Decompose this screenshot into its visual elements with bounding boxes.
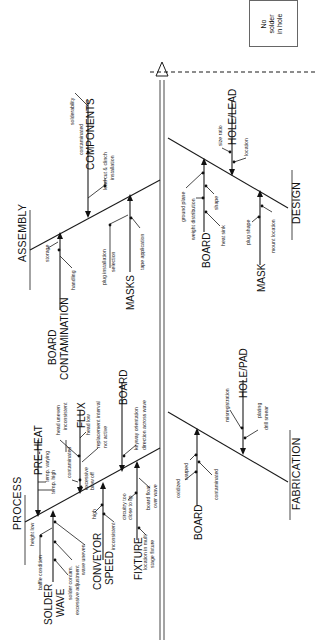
svg-text:blow off: blow off: [89, 472, 95, 490]
svg-text:ground plane: ground plane: [180, 192, 186, 222]
cause-components: COMPONENTS: [85, 98, 96, 170]
cause-board-contamination-1: BOARD: [47, 329, 58, 365]
svg-text:head low: head low: [85, 414, 91, 435]
svg-text:warped: warped: [183, 463, 189, 480]
svg-text:location in multi: location in multi: [142, 534, 148, 570]
svg-text:size ratio: size ratio: [217, 125, 223, 146]
bone-process: PROCESS PRE-HEAT temp. varying temp. hig…: [11, 369, 160, 625]
svg-text:lead cut & clinch: lead cut & clinch: [102, 152, 108, 190]
svg-text:misregistration: misregistration: [224, 388, 230, 422]
fishbone-diagram: ASSEMBLY COMPONENTS solderability contam…: [0, 0, 316, 642]
spine: [156, 62, 168, 640]
svg-text:tape application: tape application: [139, 234, 145, 270]
cause-design-board: BOARD: [201, 232, 212, 268]
svg-text:direction across wave: direction across wave: [141, 400, 147, 450]
cause-design-mask: MASK: [256, 263, 267, 292]
bone-assembly: ASSEMBLY COMPONENTS solderability contam…: [16, 93, 160, 380]
svg-text:contaminated: contaminated: [78, 124, 84, 155]
svg-text:plating: plating: [256, 403, 262, 418]
svg-text:selection: selection: [110, 251, 116, 272]
svg-text:location: location: [243, 138, 249, 156]
svg-text:oxidized: oxidized: [175, 479, 181, 498]
svg-text:plug installation: plug installation: [101, 249, 107, 285]
svg-text:height low: height low: [29, 522, 35, 546]
cause-fabrication-board: BOARD: [193, 504, 204, 540]
svg-text:weight distribution: weight distribution: [190, 198, 196, 240]
svg-text:installation: installation: [109, 155, 115, 180]
category-fabrication: FABRICATION: [290, 437, 302, 510]
svg-text:temp. high: temp. high: [50, 470, 56, 494]
svg-text:board float: board float: [145, 485, 151, 510]
cause-conveyor-speed-1: CONVEYOR: [92, 533, 103, 590]
cause-hole-lead: HOLE/LEAD: [227, 89, 238, 145]
svg-text:contaminated: contaminated: [213, 469, 219, 500]
svg-text:high: high: [91, 509, 97, 519]
category-process: PROCESS: [11, 477, 23, 530]
bone-design: DESIGN HOLE/LEAD size ratio location BOA…: [168, 89, 302, 292]
svg-text:drill smear: drill smear: [263, 406, 269, 430]
svg-text:not active: not active: [102, 426, 108, 448]
cause-pre-heat: PRE-HEAT: [33, 425, 44, 475]
svg-text:solder contam.: solder contam.: [67, 566, 73, 600]
svg-text:wave uneven: wave uneven: [80, 544, 86, 575]
category-design: DESIGN: [290, 182, 302, 224]
svg-text:contaminated: contaminated: [66, 447, 72, 478]
cause-process-board: BOARD: [118, 369, 129, 405]
spine-arrow-icon: [156, 62, 168, 76]
svg-text:solderability: solderability: [69, 97, 75, 125]
bone-fabrication: FABRICATION HOLE/PAD misregistration pla…: [168, 348, 302, 540]
svg-text:storage: storage: [44, 245, 50, 262]
svg-text:shape: shape: [213, 196, 219, 210]
svg-text:mount location: mount location: [270, 219, 276, 253]
effect-label: No solder in hole: [260, 13, 284, 34]
svg-text:stage fixture: stage fixture: [149, 540, 155, 568]
svg-text:plug shape: plug shape: [245, 220, 251, 245]
cause-hole-pad: HOLE/PAD: [238, 348, 249, 398]
svg-text:baffle condition: baffle condition: [37, 555, 43, 590]
cause-board-contamination-2: CONTAMINATION: [59, 298, 70, 380]
svg-text:inconsistent: inconsistent: [110, 522, 116, 550]
svg-text:keyway orientation: keyway orientation: [133, 407, 139, 450]
svg-text:close to lip: close to lip: [127, 495, 133, 520]
category-assembly: ASSEMBLY: [16, 204, 28, 262]
cause-conveyor-speed-2: SPEED: [104, 551, 115, 585]
svg-text:replacement interval: replacement interval: [95, 401, 101, 448]
cause-masks: MASKS: [125, 275, 136, 310]
cause-solder-wave-2: WAVE: [55, 588, 66, 617]
svg-text:over wave: over wave: [152, 484, 158, 508]
svg-text:handling: handling: [70, 270, 76, 290]
effect-box: No solder in hole: [249, 0, 298, 47]
svg-text:inconsistent: inconsistent: [62, 402, 68, 430]
cause-solder-wave-1: SOLDER: [43, 584, 54, 625]
svg-text:head uneven: head uneven: [55, 405, 61, 435]
svg-text:heat sink: heat sink: [220, 225, 226, 246]
